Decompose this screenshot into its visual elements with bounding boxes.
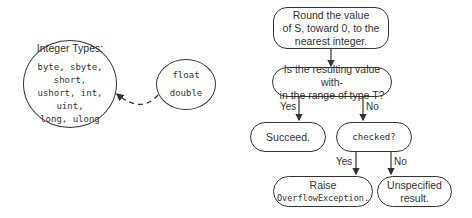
raise-label: Raise — [310, 179, 337, 192]
checked-label: checked? — [352, 131, 395, 144]
raise-exception-box: Raise OverflowException. — [273, 176, 373, 207]
round-line-1: Round the value — [293, 9, 369, 22]
range-check-box: Is the resulting value with- in the rang… — [272, 67, 392, 97]
unspecified-line-1: Unspecified — [387, 179, 442, 192]
overflow-exception-label: OverflowException. — [277, 192, 369, 205]
range-yes-label: Yes — [280, 101, 296, 112]
succeed-box: Succeed. — [250, 122, 326, 152]
integer-types-circle: Integer Types: byte, sbyte, short, ushor… — [23, 40, 117, 128]
range-no-label: No — [366, 101, 379, 112]
checked-no-label: No — [394, 156, 407, 167]
float-types-circle: float double — [156, 59, 216, 110]
range-line-2: in the range of type T? — [280, 89, 385, 102]
checked-yes-label: Yes — [336, 156, 352, 167]
round-line-2: of S, toward 0, to the — [283, 22, 380, 35]
dashed-conversion-arrow — [117, 94, 158, 104]
float-label: float — [172, 69, 199, 82]
succeed-label: Succeed. — [266, 131, 310, 144]
integer-types-line-3: long, ulong — [40, 113, 100, 126]
range-line-1: Is the resulting value with- — [273, 63, 391, 89]
unspecified-line-2: result. — [400, 192, 429, 205]
integer-types-line-2: ushort, int, uint, — [24, 87, 116, 113]
round-value-box: Round the value of S, toward 0, to the n… — [273, 7, 389, 49]
double-label: double — [170, 87, 203, 100]
round-line-3: nearest integer. — [295, 35, 367, 48]
integer-types-line-1: byte, sbyte, short, — [24, 61, 116, 87]
unspecified-result-box: Unspecified result. — [377, 176, 452, 207]
integer-types-title: Integer Types: — [37, 42, 103, 55]
checked-box: checked? — [336, 122, 412, 152]
